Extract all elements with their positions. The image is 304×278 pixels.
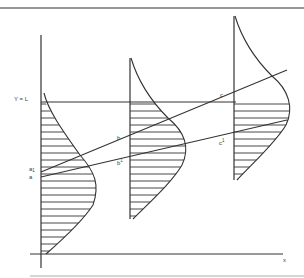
lower-trend-line	[41, 120, 287, 177]
label-b1: b1	[117, 158, 123, 166]
distribution-3	[234, 16, 300, 180]
label-b: b	[117, 135, 121, 141]
label-a1: a1	[29, 166, 35, 173]
distribution-3-curve	[235, 16, 290, 180]
label-c1: c1	[219, 138, 225, 146]
distribution-1	[41, 93, 110, 254]
diagram-canvas: Y = L x a1 a b b1 c c1	[0, 0, 304, 278]
upper-trend-line	[41, 70, 287, 172]
distribution-2	[130, 58, 200, 219]
label-a: a	[29, 174, 33, 180]
label-x-axis: x	[283, 257, 286, 263]
label-c: c	[220, 92, 223, 98]
label-y-equals-L: Y = L	[14, 96, 29, 102]
